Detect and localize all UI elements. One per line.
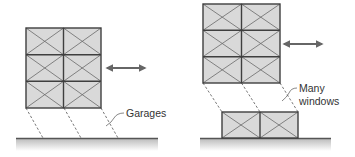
left-label-leader	[106, 113, 124, 126]
left-ground	[16, 139, 158, 152]
garages-label: Garages	[126, 107, 166, 119]
right-upper-frame	[203, 4, 280, 83]
left-garage-columns	[26, 108, 118, 138]
right-ground	[200, 139, 331, 152]
left-upper-frame	[26, 28, 101, 108]
soft-story-diagram: Garages	[0, 0, 355, 157]
many-label: Many	[299, 82, 325, 94]
windows-label: windows	[298, 95, 339, 107]
right-connecting-columns	[203, 83, 298, 112]
right-building: Many windows	[200, 4, 339, 151]
left-building: Garages	[16, 28, 166, 151]
right-ground-floor-frame	[222, 112, 298, 138]
